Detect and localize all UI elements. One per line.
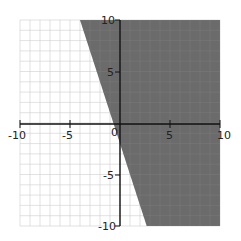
x-tick-label: 10 xyxy=(217,129,231,142)
x-tick-label: 5 xyxy=(166,129,173,142)
x-tick-label: -5 xyxy=(62,129,73,142)
inequality-graph: -10 -5 0 5 10 10 5 -5 -10 xyxy=(0,0,241,241)
y-tick-label: -5 xyxy=(103,169,114,182)
x-tick-label: -10 xyxy=(8,129,26,142)
y-tick-label: 10 xyxy=(101,14,115,27)
y-tick-label: -10 xyxy=(98,220,116,233)
y-tick-label: 5 xyxy=(107,66,114,79)
x-tick-label: 0 xyxy=(111,126,118,139)
